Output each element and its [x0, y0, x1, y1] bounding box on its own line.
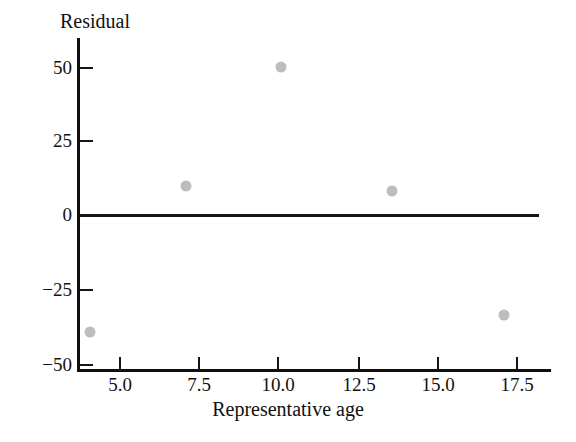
x-axis-tick	[198, 357, 200, 370]
x-axis-tick	[358, 357, 360, 370]
data-point	[499, 310, 510, 321]
x-axis-tick-label: 5.0	[108, 374, 132, 396]
data-point	[276, 62, 287, 73]
y-axis-tick	[80, 364, 93, 366]
x-axis-tick	[277, 357, 279, 370]
y-axis-tick-label: 25	[53, 131, 72, 150]
y-axis-tick	[80, 140, 93, 142]
x-axis-tick-label: 10.0	[261, 374, 294, 396]
y-axis-title: Residual	[60, 10, 130, 32]
x-axis-line	[77, 369, 551, 372]
data-point	[387, 186, 398, 197]
y-axis-tick	[80, 289, 93, 291]
x-axis-title: Representative age	[0, 398, 576, 421]
x-axis-tick	[437, 357, 439, 370]
y-axis-tick-label: 0	[63, 205, 73, 224]
y-axis-tick-label: 50	[53, 58, 72, 77]
zero-reference-line	[78, 214, 539, 217]
y-axis-tick-label: −50	[42, 355, 72, 374]
x-axis-tick-label: 12.5	[342, 374, 375, 396]
x-axis-tick	[119, 357, 121, 370]
y-axis-tick	[80, 67, 93, 69]
y-axis-tick-label: −25	[42, 280, 72, 299]
x-axis-tick-label: 15.0	[421, 374, 454, 396]
x-axis-tick	[516, 357, 518, 370]
y-axis-line	[77, 38, 80, 372]
residual-plot-figure: Residual 50250−25−50 5.07.510.012.515.01…	[0, 0, 576, 442]
x-axis-tick-label: 17.5	[500, 374, 533, 396]
data-point	[181, 181, 192, 192]
x-axis-tick-label: 7.5	[187, 374, 211, 396]
data-point	[85, 327, 96, 338]
